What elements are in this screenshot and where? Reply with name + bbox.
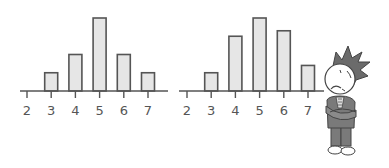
x-tick-label: 7 <box>144 103 152 118</box>
bar-7 <box>142 73 155 91</box>
x-tick-label: 6 <box>280 103 288 118</box>
x-tick-label: 4 <box>231 103 239 118</box>
bar-6 <box>277 31 290 91</box>
worried-man-character-icon <box>325 46 370 155</box>
x-tick-label: 6 <box>120 103 128 118</box>
x-tick-label: 4 <box>71 103 79 118</box>
x-tick-label: 5 <box>95 103 103 118</box>
bar-5 <box>93 18 106 91</box>
x-tick-label: 7 <box>304 103 312 118</box>
bar-7 <box>302 65 315 91</box>
x-tick-label: 5 <box>255 103 263 118</box>
histogram-comparison-figure: 234567 234567 <box>0 0 389 168</box>
x-tick-label: 2 <box>183 103 191 118</box>
x-tick-label: 3 <box>207 103 215 118</box>
histogram-right: 234567 <box>179 18 324 118</box>
x-tick-label: 3 <box>47 103 55 118</box>
histogram-left: 234567 <box>20 18 168 118</box>
bar-5 <box>253 18 266 91</box>
bar-3 <box>205 73 218 91</box>
bar-4 <box>229 36 242 91</box>
x-tick-label: 2 <box>23 103 31 118</box>
bar-3 <box>45 73 58 91</box>
bar-4 <box>69 55 82 92</box>
bar-6 <box>117 55 130 92</box>
